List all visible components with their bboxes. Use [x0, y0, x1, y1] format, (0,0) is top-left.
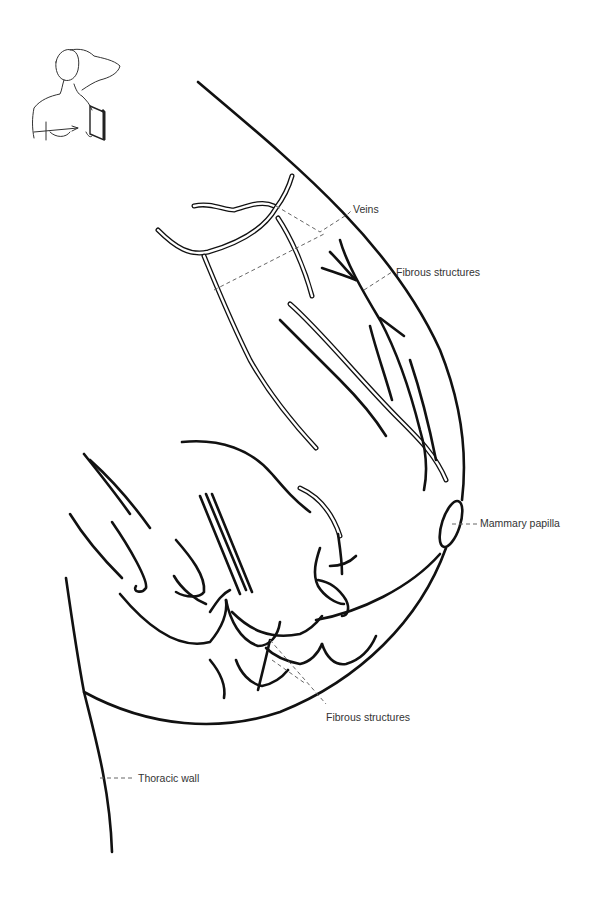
label-veins: Veins	[353, 203, 379, 215]
orientation-thumbnail-icon	[33, 49, 121, 140]
label-mammary-papilla: Mammary papilla	[480, 517, 560, 529]
skin-contour	[198, 82, 464, 500]
glandular-tissue	[70, 441, 440, 698]
label-fibrous-structures-upper: Fibrous structures	[396, 266, 480, 278]
veins-group	[158, 176, 446, 536]
label-fibrous-structures-lower: Fibrous structures	[326, 711, 410, 723]
skin-contour-lower	[84, 548, 446, 724]
breast-anatomy-diagram: Veins Fibrous structures Mammary papilla…	[0, 0, 590, 898]
label-thoracic-wall: Thoracic wall	[138, 772, 199, 784]
thoracic-wall-line	[66, 578, 112, 852]
